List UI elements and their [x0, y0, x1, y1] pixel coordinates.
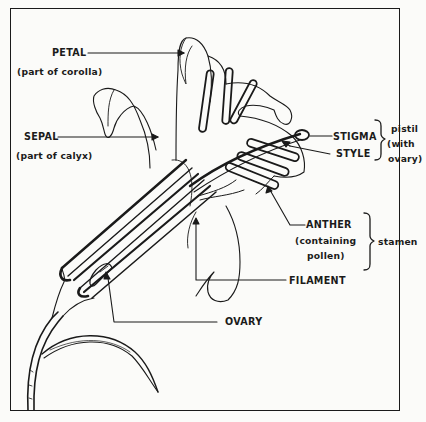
label-anther: ANTHER — [306, 219, 352, 230]
leaf — [42, 336, 158, 392]
label-petal: PETAL — [52, 47, 86, 58]
upper-anthers — [199, 68, 258, 132]
lily-flower-illustration — [0, 0, 426, 422]
label-petal-note: (part of corolla) — [17, 66, 102, 77]
label-pistil-note-1: (with — [387, 138, 415, 149]
label-anther-note-1: (containing — [295, 235, 356, 246]
label-stamen: stamen — [378, 236, 418, 247]
label-pistil: pistil — [391, 123, 418, 134]
label-pistil-note-2: ovary) — [388, 153, 422, 164]
sepal — [93, 88, 156, 168]
label-sepal-note: (part of calyx) — [16, 150, 93, 161]
label-ovary: OVARY — [225, 316, 262, 327]
stamen-brace — [364, 213, 374, 270]
stem — [28, 312, 63, 410]
petal — [176, 38, 226, 160]
receptacle — [52, 268, 94, 318]
label-anther-note-2: pollen) — [307, 250, 345, 261]
label-sepal: SEPAL — [24, 131, 59, 142]
flower-tube — [60, 160, 216, 298]
label-stigma: STIGMA — [333, 131, 377, 142]
label-style: STYLE — [336, 148, 371, 159]
label-filament: FILAMENT — [289, 275, 346, 286]
